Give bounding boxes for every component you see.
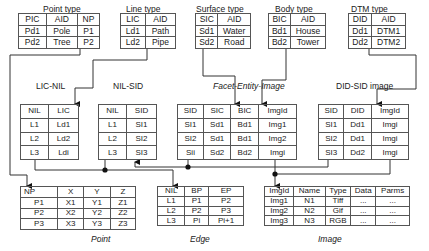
cell: Bd1 [269, 25, 291, 37]
nil-sid-label: NIL-SID [113, 81, 143, 91]
cell: Imgi [371, 146, 408, 160]
cell: ImgId [265, 187, 294, 197]
cell: SI3 [319, 146, 344, 160]
cell: EP [209, 187, 244, 197]
cell: SI2 [319, 132, 344, 146]
cell: Y1 [84, 197, 110, 208]
cell: P1 [21, 197, 58, 208]
cell: Name [294, 187, 325, 197]
cell: Z1 [110, 197, 135, 208]
cell: P1 [77, 25, 99, 37]
cell: Sd2 [196, 37, 218, 49]
cell: Pi+1 [209, 216, 244, 226]
cell: X2 [57, 208, 83, 219]
cell: L3 [99, 146, 127, 160]
cell: ... [351, 216, 376, 226]
surface-type-table: SICAID Sd1Water Sd2Road [195, 13, 251, 49]
cell: Sd1 [203, 118, 231, 132]
cell: SIC [196, 14, 218, 26]
cell: Road [218, 37, 251, 49]
cell: AID [218, 14, 251, 26]
cell: Imgi [258, 146, 296, 160]
cell: N2 [294, 206, 325, 216]
cell: Gif [325, 206, 351, 216]
cell: Pole [46, 25, 77, 37]
cell: Ld1 [49, 118, 79, 132]
cell: RGB [325, 216, 351, 226]
cell: X1 [57, 197, 83, 208]
cell: Img1 [258, 118, 296, 132]
cell: Bd1 [231, 118, 259, 132]
cell: DTM2 [372, 37, 406, 49]
cell: ImgId [371, 105, 408, 119]
lic-nil-table: NILLIC L1Ld1 L2Ld2 L3Ldi [20, 104, 79, 160]
cell: Sd1 [196, 25, 218, 37]
cell: P1 [185, 196, 209, 206]
cell: L2 [99, 132, 127, 146]
cell: DID [344, 105, 372, 119]
body-type-table: BICAID Bd1House Bd2Tower [268, 13, 326, 49]
cell: Img2 [258, 132, 296, 146]
cell: Z [110, 187, 135, 198]
line-type-table: LICAID Ld1Path Ld2Pipe [120, 13, 176, 49]
cell: N1 [294, 196, 325, 206]
cell: X3 [57, 219, 83, 230]
cell: Sii [178, 146, 204, 160]
cell: Dd1 [344, 118, 372, 132]
cell: ImgId [258, 105, 296, 119]
cell: AID [46, 14, 77, 26]
edge-table-title: Edge [190, 234, 210, 244]
image-table-title: Image [318, 234, 342, 244]
cell: Dd1 [344, 132, 372, 146]
cell: Z2 [110, 208, 135, 219]
image-table: ImgIdNameTypeDataParms Img1N1Tiff...... … [264, 186, 410, 226]
cell: LIC [121, 14, 146, 26]
cell: P2 [21, 208, 58, 219]
cell: P3 [209, 206, 244, 216]
cell: SI1 [127, 118, 157, 132]
cell: P2 [209, 196, 244, 206]
cell: P2 [185, 206, 209, 216]
cell: SI2 [178, 132, 204, 146]
did-sid-image-label: DID-SID image [336, 81, 393, 91]
point-table-title: Point [91, 234, 110, 244]
cell: Img3 [265, 216, 294, 226]
cell: House [291, 25, 326, 37]
did-sid-image-table: SIDDIDImgId SI1Dd1Imgi SI2Dd1Imgi SI3Dd2… [318, 104, 409, 160]
cell: Pd1 [19, 25, 47, 37]
cell: SID [319, 105, 344, 119]
cell: Water [218, 25, 251, 37]
cell: BIC [269, 14, 291, 26]
cell: L1 [21, 118, 49, 132]
cell: Tiff [325, 196, 351, 206]
cell: Data [351, 187, 376, 197]
cell: Bd2 [269, 37, 291, 49]
cell: SI2 [127, 132, 157, 146]
cell: BIC [231, 105, 259, 119]
cell: SID [178, 105, 204, 119]
cell: ... [351, 206, 376, 216]
cell: X [57, 187, 83, 198]
cell: DID [349, 14, 372, 26]
cell: Sd1 [203, 132, 231, 146]
cell: AID [372, 14, 406, 26]
cell: ... [376, 196, 410, 206]
lic-nil-label: LIC-NIL [36, 81, 65, 91]
cell: Pd2 [19, 37, 47, 49]
cell: L3 [21, 146, 49, 160]
cell: ... [376, 216, 410, 226]
cell: SID [127, 105, 157, 119]
cell: AID [145, 14, 175, 26]
cell: P2 [77, 37, 99, 49]
cell: Z3 [110, 219, 135, 230]
cell: Tower [291, 37, 326, 49]
cell: SIC [203, 105, 231, 119]
cell: BP [185, 187, 209, 197]
cell: Bd2 [231, 146, 259, 160]
edge-table: NILBPEP L1P1P2 L2P2P3 L3PiPi+1 [157, 186, 244, 226]
cell: L2 [21, 132, 49, 146]
cell: Y3 [84, 219, 110, 230]
cell: SI1 [319, 118, 344, 132]
cell: L3 [158, 216, 185, 226]
cell: Dd2 [349, 37, 372, 49]
